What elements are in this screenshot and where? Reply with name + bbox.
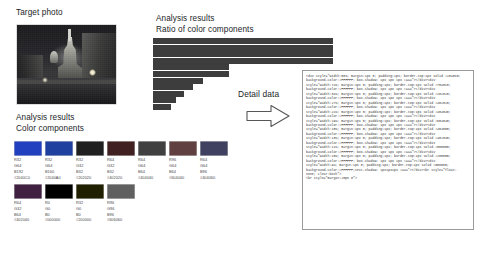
analysis-results-heading-1: Analysis results [156, 14, 214, 23]
swatch-hex-code: #000000 [45, 217, 73, 222]
ratio-of-color-components-label: Ratio of color components [156, 25, 254, 34]
swatch-hex-code: #404060 [200, 175, 228, 180]
chart-bar [153, 97, 176, 103]
swatch-hex-code: #604040 [169, 175, 197, 180]
swatch-channel-value: G64 [200, 163, 228, 168]
swatch-channel-value: G64 [14, 163, 42, 168]
swatch-cell[interactable]: R32G64B192#2040C0 [14, 141, 42, 180]
color-swatch [107, 184, 135, 199]
swatch-channel-value: G0 [45, 206, 73, 211]
swatch-cell[interactable]: R64G32B64#402040 [14, 184, 42, 223]
swatch-channel-value: G64 [138, 163, 166, 168]
swatch-hex-code: #402040 [14, 217, 42, 222]
swatch-cell[interactable]: R0G0B0#000000 [45, 184, 73, 223]
swatch-channel-value: G64 [45, 163, 73, 168]
components-section-heading: Analysis resultsColor components [16, 113, 84, 134]
chart-bar [153, 58, 333, 64]
chart-bar [153, 38, 333, 44]
swatch-channel-value: R96 [169, 157, 197, 162]
swatch-channel-value: R64 [14, 200, 42, 205]
swatch-hex-code: #200000 [76, 217, 104, 222]
color-swatch [169, 141, 197, 156]
swatch-channel-value: R32 [14, 157, 42, 162]
swatch-channel-value: G0 [76, 206, 104, 211]
swatch-cell[interactable]: R64G64B64#404040 [138, 141, 166, 180]
right-arrow-icon [246, 104, 290, 128]
color-swatch [76, 184, 104, 199]
swatch-channel-value: R32 [76, 157, 104, 162]
swatch-channel-value: R64 [138, 157, 166, 162]
swatch-cell[interactable]: R32G64B160#2040A0 [45, 141, 73, 180]
swatch-cell[interactable]: R96G96B96#606060 [107, 184, 135, 223]
chart-bar [153, 104, 171, 110]
chart-bar [153, 51, 333, 57]
code-line: <br style="margin:20px 0"> [306, 176, 470, 180]
swatch-cell[interactable]: R96G64B64#604040 [169, 141, 197, 180]
swatch-hex-code: #2040A0 [45, 175, 73, 180]
swatch-channel-value: G96 [107, 206, 135, 211]
swatch-channel-value: R32 [76, 200, 104, 205]
photo-grain-overlay [17, 25, 116, 104]
swatch-channel-value: G64 [169, 163, 197, 168]
swatch-row: R32G64B192#2040C0R32G64B160#2040A0R32G32… [14, 141, 240, 180]
chart-bar [153, 71, 229, 77]
color-components-grid: R32G64B192#2040C0R32G64B160#2040A0R32G32… [14, 141, 240, 227]
chart-bar [153, 91, 184, 97]
swatch-channel-value: R64 [107, 157, 135, 162]
color-swatch [138, 141, 166, 156]
color-swatch [76, 141, 104, 156]
analysis-results-heading-2: Analysis results [16, 113, 74, 122]
swatch-channel-value: R96 [107, 200, 135, 205]
swatch-row: R64G32B64#402040R0G0B0#000000R32G0B0#200… [14, 184, 240, 223]
swatch-hex-code: #202020 [76, 175, 104, 180]
color-swatch [45, 184, 73, 199]
code-line: style="width:10%; margin:1px 0; padding:… [306, 154, 470, 158]
swatch-hex-code: #402020 [107, 175, 135, 180]
chart-bar [153, 78, 203, 84]
swatch-channel-value: R0 [45, 200, 73, 205]
swatch-channel-value: R32 [45, 157, 73, 162]
color-components-label: Color components [16, 124, 84, 133]
color-swatch [45, 141, 73, 156]
swatch-hex-code: #606060 [107, 217, 135, 222]
swatch-channel-value: G32 [14, 206, 42, 211]
target-photo-label: Target photo [16, 8, 63, 19]
chart-bar [153, 84, 193, 90]
color-swatch [107, 141, 135, 156]
swatch-cell[interactable]: R64G32B32#402020 [107, 141, 135, 180]
code-line: style="width:9%; margin:1px 0; padding:1… [306, 163, 470, 167]
chart-bar [153, 64, 229, 70]
chart-bar [153, 45, 333, 51]
swatch-hex-code: #2040C0 [14, 175, 42, 180]
color-swatch [14, 184, 42, 199]
ratio-section-heading: Analysis resultsRatio of color component… [156, 14, 254, 35]
target-photo-image [17, 25, 116, 104]
swatch-hex-code: #404040 [138, 175, 166, 180]
swatch-cell[interactable]: R32G0B0#200000 [76, 184, 104, 223]
swatch-channel-value: G32 [107, 163, 135, 168]
swatch-cell[interactable]: R64G64B96#404060 [200, 141, 228, 180]
color-swatch [200, 141, 228, 156]
swatch-cell[interactable]: R32G32B32#202020 [76, 141, 104, 180]
color-swatch [14, 141, 42, 156]
detail-data-code-panel[interactable]: <div style="width:50%; margin:1px 0; pad… [302, 70, 474, 230]
swatch-channel-value: R64 [200, 157, 228, 162]
swatch-channel-value: G32 [76, 163, 104, 168]
